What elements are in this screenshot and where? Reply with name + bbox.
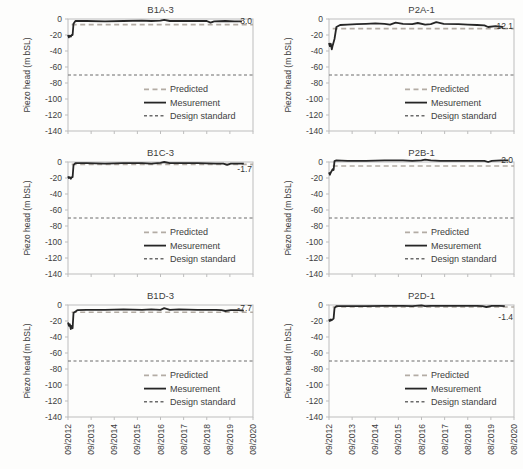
- annotation-value: -1.7: [237, 164, 252, 174]
- y-axis-title: Piezo head (m bSL): [22, 37, 32, 112]
- y-tick-label: -100: [306, 94, 323, 104]
- y-tick-label: -40: [50, 332, 63, 342]
- y-tick-label: -140: [45, 269, 62, 279]
- y-tick-label: -20: [50, 30, 63, 40]
- x-tick-label: 09/2014: [370, 424, 380, 455]
- x-tick-label: 09/2014: [109, 424, 119, 455]
- legend-label: Design standard: [170, 254, 236, 264]
- chart-P2A-1: P2A-10-20-40-60-80-100-120-140Piezo head…: [261, 3, 522, 146]
- y-tick-label: -120: [45, 396, 62, 406]
- y-tick-label: -40: [311, 332, 324, 342]
- annotation-value: -12.1: [494, 21, 514, 31]
- x-tick-label: 08/2016: [156, 424, 166, 455]
- x-tick-label: 09/2012: [63, 424, 73, 455]
- legend-item-mesurement: Mesurement: [144, 241, 221, 251]
- chart-title: B1D-3: [147, 290, 174, 301]
- legend-item-mesurement: Mesurement: [144, 98, 221, 108]
- legend-item-design-standard: Design standard: [144, 397, 236, 407]
- x-tick-label: 09/2015: [393, 424, 403, 455]
- y-tick-label: -120: [306, 110, 323, 120]
- measurement-line: [329, 22, 503, 49]
- measurement-line: [68, 20, 242, 38]
- x-tick-label: 08/2017: [440, 424, 450, 455]
- y-tick-label: -20: [311, 316, 324, 326]
- legend-label: Design standard: [170, 397, 236, 407]
- y-tick-label: -80: [311, 78, 324, 88]
- y-tick-label: -120: [306, 253, 323, 263]
- x-tick-label: 09/2013: [86, 424, 96, 455]
- y-tick-label: -140: [45, 412, 62, 422]
- legend-label: Predicted: [431, 227, 469, 237]
- chart-svg-B1C-3: B1C-30-20-40-60-80-100-120-140Piezo head…: [4, 146, 261, 289]
- chart-title: P2D-1: [408, 290, 435, 301]
- y-tick-label: -120: [45, 253, 62, 263]
- y-tick-label: -80: [50, 364, 63, 374]
- chart-P2D-1: P2D-10-20-40-60-80-100-120-140Piezo head…: [261, 289, 522, 468]
- y-tick-label: -20: [311, 173, 324, 183]
- legend-label: Mesurement: [170, 384, 221, 394]
- x-tick-label: 08/2018: [463, 424, 473, 455]
- y-tick-label: 0: [57, 14, 62, 24]
- legend-item-mesurement: Mesurement: [405, 384, 482, 394]
- chart-B1C-3: B1C-30-20-40-60-80-100-120-140Piezo head…: [0, 146, 261, 289]
- y-tick-label: -140: [306, 269, 323, 279]
- chart-svg-P2D-1: P2D-10-20-40-60-80-100-120-140Piezo head…: [265, 289, 522, 468]
- legend-label: Mesurement: [170, 98, 221, 108]
- legend-item-mesurement: Mesurement: [405, 241, 482, 251]
- legend-label: Predicted: [431, 370, 469, 380]
- legend-item-design-standard: Design standard: [144, 111, 236, 121]
- y-tick-label: 0: [318, 300, 323, 310]
- chart-title: B1C-3: [147, 147, 174, 158]
- annotation-value: -3.0: [237, 16, 252, 26]
- y-tick-label: -20: [50, 316, 63, 326]
- y-tick-label: 0: [318, 14, 323, 24]
- x-tick-label: 08/2019: [225, 424, 235, 455]
- legend-label: Mesurement: [170, 241, 221, 251]
- legend-item-predicted: Predicted: [405, 227, 469, 237]
- chart-grid: B1A-30-20-40-60-80-100-120-140Piezo head…: [0, 0, 523, 468]
- chart-B1A-3: B1A-30-20-40-60-80-100-120-140Piezo head…: [0, 3, 261, 146]
- y-tick-label: -60: [311, 62, 324, 72]
- legend-item-predicted: Predicted: [144, 84, 208, 94]
- chart-svg-P2B-1: P2B-10-20-40-60-80-100-120-140Piezo head…: [265, 146, 522, 289]
- x-tick-label: 09/2015: [132, 424, 142, 455]
- y-tick-label: -80: [311, 364, 324, 374]
- annotation-value: -1.4: [498, 312, 513, 322]
- y-tick-label: 0: [57, 157, 62, 167]
- y-tick-label: -140: [306, 412, 323, 422]
- legend-item-design-standard: Design standard: [405, 254, 497, 264]
- legend-label: Mesurement: [431, 98, 482, 108]
- legend-label: Design standard: [431, 111, 497, 121]
- legend-label: Mesurement: [431, 241, 482, 251]
- legend-item-mesurement: Mesurement: [144, 384, 221, 394]
- y-tick-label: -20: [50, 173, 63, 183]
- legend-item-predicted: Predicted: [405, 370, 469, 380]
- legend-label: Design standard: [431, 254, 497, 264]
- x-tick-label: 09/2012: [324, 424, 334, 455]
- x-tick-label: 08/2017: [179, 424, 189, 455]
- y-tick-label: -100: [45, 380, 62, 390]
- measurement-line: [68, 308, 244, 329]
- y-tick-label: -100: [306, 380, 323, 390]
- y-axis-title: Piezo head (m bSL): [22, 323, 32, 398]
- legend-item-mesurement: Mesurement: [405, 98, 482, 108]
- legend-label: Mesurement: [431, 384, 482, 394]
- y-tick-label: -80: [50, 221, 63, 231]
- chart-B1D-3: B1D-30-20-40-60-80-100-120-140Piezo head…: [0, 289, 261, 468]
- y-axis-title: Piezo head (m bSL): [283, 323, 293, 398]
- legend-item-design-standard: Design standard: [405, 397, 497, 407]
- chart-svg-B1A-3: B1A-30-20-40-60-80-100-120-140Piezo head…: [4, 3, 261, 146]
- y-tick-label: -80: [311, 221, 324, 231]
- legend-label: Design standard: [170, 111, 236, 121]
- y-tick-label: 0: [318, 157, 323, 167]
- y-tick-label: -60: [311, 348, 324, 358]
- y-tick-label: -140: [306, 126, 323, 136]
- y-tick-label: -40: [311, 46, 324, 56]
- x-tick-label: 08/2018: [202, 424, 212, 455]
- legend-label: Predicted: [170, 84, 208, 94]
- y-tick-label: -120: [306, 396, 323, 406]
- y-tick-label: -20: [311, 30, 324, 40]
- y-axis-title: Piezo head (m bSL): [283, 180, 293, 255]
- y-tick-label: -60: [50, 62, 63, 72]
- x-tick-label: 08/2020: [248, 424, 258, 455]
